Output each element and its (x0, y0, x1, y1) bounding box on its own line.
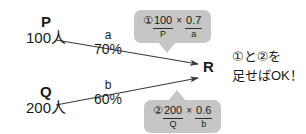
callout-1-term-right: 0.7 a (185, 15, 202, 39)
edge-label-a: a 70% (86, 29, 130, 58)
node-q-letter: Q (14, 84, 78, 100)
callout-2-term-right: 0.6 b (195, 105, 212, 129)
callout-1-marker: ① (143, 15, 153, 27)
callout-2-numerator-right: 0.6 (195, 105, 212, 119)
summary-note-line-2: 足せばOK！ (232, 67, 303, 86)
callout-2-marker: ② (153, 105, 163, 117)
callout-1-numerator-left: 100 (153, 15, 173, 29)
edge-a-percent: 70% (86, 42, 130, 57)
callout-2-operator: × (183, 106, 195, 117)
callout-1-tail-icon (158, 42, 176, 53)
summary-note: ①と②を 足せばOK！ (232, 48, 303, 86)
edge-label-b: b 60% (86, 79, 130, 108)
callout-1-denominator-left: P (153, 29, 173, 39)
node-r: R (203, 58, 214, 75)
node-q: Q 200人 (14, 84, 78, 116)
node-p-count: 100人 (14, 30, 78, 46)
callout-1-operator: × (173, 16, 185, 27)
edge-b-percent: 60% (86, 92, 130, 107)
callout-2-numerator-left: 200 (163, 105, 183, 119)
callout-1-denominator-right: a (185, 29, 202, 39)
callout-1-term-left: 100 P (153, 15, 173, 39)
summary-note-line-1: ①と②を (232, 48, 303, 67)
callout-formula-1: ① 100 P × 0.7 a (134, 10, 211, 43)
callout-2-term-left: 200 Q (163, 105, 183, 129)
callout-2-denominator-left: Q (163, 119, 183, 129)
callout-formula-2: ② 200 Q × 0.6 b (144, 100, 221, 133)
diagram-canvas: P 100人 Q 200人 R a 70% b 60% ① 100 P × 0.… (0, 0, 306, 134)
callout-2-denominator-right: b (195, 119, 212, 129)
callout-1-numerator-right: 0.7 (185, 15, 202, 29)
node-p-letter: P (14, 14, 78, 30)
callout-2-tail-icon (168, 90, 186, 101)
node-q-count: 200人 (14, 100, 78, 116)
node-p: P 100人 (14, 14, 78, 46)
